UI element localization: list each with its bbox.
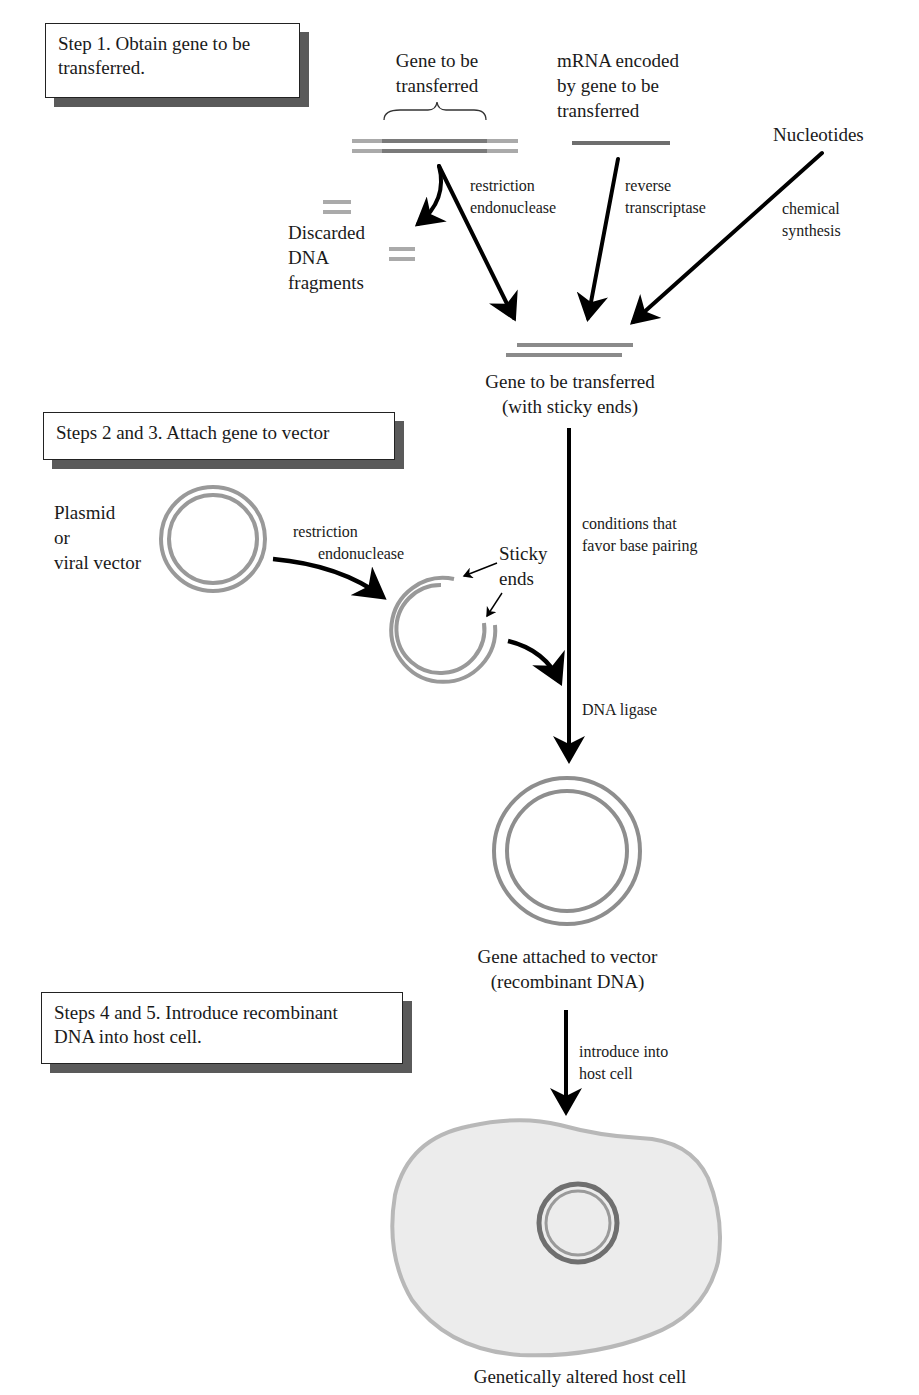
step-2-3-box: Steps 2 and 3. Attach gene to vector [43, 412, 395, 460]
mrna-label: mRNA encoded by gene to be transferred [557, 48, 679, 123]
discarded-fragments-label: Discarded DNA fragments [288, 220, 365, 295]
restriction-endonuclease-2-label: restriction endonuclease [293, 521, 404, 565]
plasmid-icon [161, 487, 265, 591]
sticky-ends-label: Sticky ends [499, 541, 548, 591]
arrow-icon [508, 641, 560, 682]
sticky-gene-label: Gene to be transferred (with sticky ends… [450, 369, 690, 419]
reverse-transcriptase-label: reverse transcriptase [625, 175, 706, 219]
step-4-5-box: Steps 4 and 5. Introduce recombinant DNA… [41, 992, 403, 1064]
step-4-5-text: DNA into host cell. [54, 1025, 390, 1049]
chemical-synthesis-label: chemical synthesis [782, 198, 841, 242]
source-dna-icon [352, 141, 518, 151]
brace-icon [384, 102, 486, 120]
step-2-3-text: Steps 2 and 3. Attach gene to vector [56, 421, 382, 445]
plasmid-label: Plasmid or viral vector [54, 500, 141, 575]
base-pairing-label: conditions that favor base pairing [582, 513, 698, 557]
step-4-5-text: Steps 4 and 5. Introduce recombinant [54, 1001, 390, 1025]
recombinant-label: Gene attached to vector (recombinant DNA… [430, 944, 705, 994]
gene-source-label: Gene to be transferred [382, 48, 492, 98]
step-1-box: Step 1. Obtain gene to be transferred. [45, 23, 300, 98]
recombinant-dna-icon [494, 778, 640, 924]
step-1-text: Step 1. Obtain gene to be [58, 32, 287, 56]
dna-ligase-label: DNA ligase [582, 699, 657, 721]
host-cell-icon [392, 1120, 720, 1355]
restriction-endonuclease-label: restriction endonuclease [470, 175, 556, 219]
step-1-text: transferred. [58, 56, 287, 80]
pointer-arrow-icon [464, 563, 502, 616]
host-cell-label: Genetically altered host cell [420, 1364, 740, 1389]
cut-plasmid-icon [391, 578, 495, 682]
sticky-gene-icon [506, 345, 633, 355]
nucleotides-label: Nucleotides [773, 122, 864, 147]
introduce-label: introduce into host cell [579, 1041, 668, 1085]
